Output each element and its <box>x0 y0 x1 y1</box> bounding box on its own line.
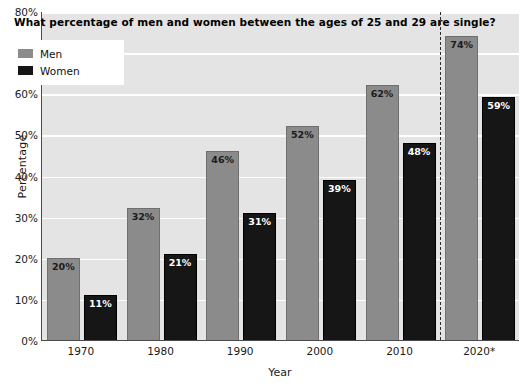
legend-item-women: Women <box>18 62 124 79</box>
legend-swatch-icon <box>18 49 33 58</box>
bar-value-label: 74% <box>446 40 477 50</box>
bar-value-label: 62% <box>367 89 398 99</box>
bar-men-2000: 52% <box>286 126 319 340</box>
bar-men-2010: 62% <box>366 85 399 340</box>
bar-value-label: 31% <box>244 217 275 227</box>
bar-value-label: 11% <box>85 299 116 309</box>
legend-label: Men <box>40 48 62 60</box>
legend-item-men: Men <box>18 45 124 62</box>
bar-women-2020: 59% <box>482 97 515 340</box>
y-axis-tick: 0% <box>4 335 38 347</box>
bar-women-1990: 31% <box>243 213 276 340</box>
bar-value-label: 59% <box>483 101 514 111</box>
y-axis-tick: 20% <box>4 253 38 265</box>
bar-men-2020: 74% <box>445 36 478 340</box>
y-axis-tick: 40% <box>4 171 38 183</box>
bar-value-label: 52% <box>287 130 318 140</box>
bar-men-1990: 46% <box>206 151 239 340</box>
legend-swatch-icon <box>18 66 33 75</box>
bar-men-1980: 32% <box>127 208 160 340</box>
bar-value-label: 39% <box>324 184 355 194</box>
x-axis-tick: 1990 <box>227 345 254 357</box>
x-axis-tick: 2020* <box>463 345 495 357</box>
bar-women-2000: 39% <box>323 180 356 340</box>
projection-divider-line <box>440 12 441 340</box>
x-axis-tick: 1970 <box>67 345 94 357</box>
bar-women-2010: 48% <box>403 143 436 340</box>
x-axis-tick: 1980 <box>147 345 174 357</box>
x-axis-tick: 2000 <box>306 345 333 357</box>
chart-title: What percentage of men and women between… <box>14 16 496 28</box>
y-axis-tick: 30% <box>4 212 38 224</box>
bar-chart: Percentage 0%10%20%30%40%50%60%70%80% 20… <box>0 0 527 389</box>
x-axis-tick-labels: 197019801990200020102020* <box>41 345 519 361</box>
y-axis-tick: 60% <box>4 88 38 100</box>
chart-legend: MenWomen <box>8 40 124 85</box>
bar-value-label: 21% <box>165 258 196 268</box>
bar-men-1970: 20% <box>47 258 80 340</box>
legend-label: Women <box>40 65 80 77</box>
x-axis-tick: 2010 <box>386 345 413 357</box>
y-axis-tick: 50% <box>4 129 38 141</box>
bar-value-label: 48% <box>404 147 435 157</box>
x-axis-title: Year <box>41 366 519 379</box>
y-axis-tick: 10% <box>4 294 38 306</box>
bar-women-1980: 21% <box>164 254 197 340</box>
bar-women-1970: 11% <box>84 295 117 340</box>
bar-value-label: 20% <box>48 262 79 272</box>
bar-value-label: 32% <box>128 212 159 222</box>
bar-value-label: 46% <box>207 155 238 165</box>
